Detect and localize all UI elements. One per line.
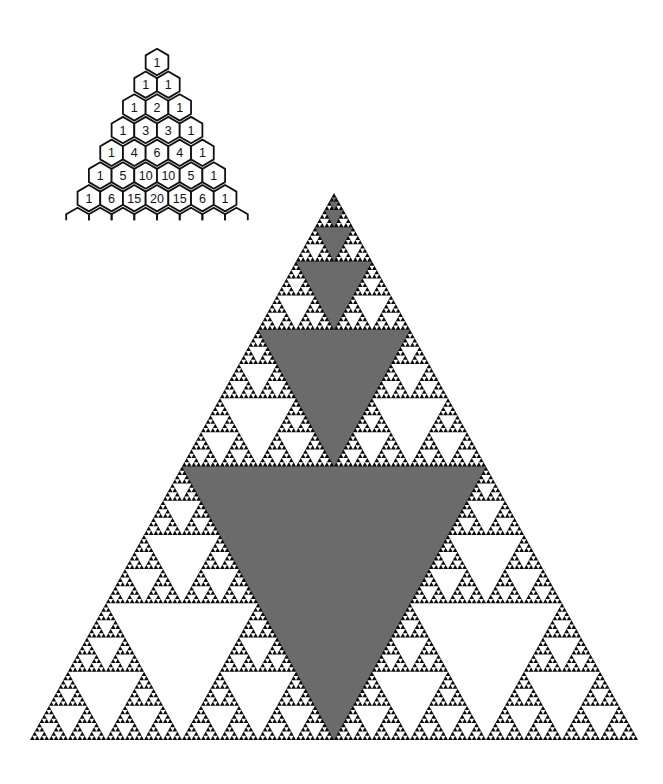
pascal-cell-value: 1 (165, 78, 172, 92)
pascal-cell-value: 1 (199, 146, 206, 160)
pascal-cell-value: 4 (131, 146, 138, 160)
pascal-cell-value: 4 (176, 146, 183, 160)
pascal-cell-value: 5 (188, 169, 195, 183)
pascal-cell-value: 3 (142, 124, 149, 138)
pascal-triangle: 111121133114641151010511615201561 (66, 49, 248, 221)
pascal-cell-value: 20 (150, 192, 164, 206)
pascal-cell-value: 1 (154, 56, 161, 70)
pascal-cell-value: 3 (165, 124, 172, 138)
pascal-cell-value: 1 (119, 124, 126, 138)
pascal-cell-value: 2 (154, 101, 161, 115)
sierpinski-triangle (30, 193, 638, 740)
pascal-cell-value: 1 (188, 124, 195, 138)
pascal-cell-value: 1 (85, 192, 92, 206)
pascal-cell-value: 1 (97, 169, 104, 183)
pascal-cell-value: 1 (142, 78, 149, 92)
pascal-cell-value: 10 (161, 169, 175, 183)
pascal-cell-value: 6 (108, 192, 115, 206)
pascal-cell-value: 1 (108, 146, 115, 160)
pascal-cell-value: 1 (222, 192, 229, 206)
pascal-cell-value: 1 (176, 101, 183, 115)
figure-canvas: 111121133114641151010511615201561 (0, 0, 663, 784)
pascal-cell-value: 6 (199, 192, 206, 206)
pascal-cell-value: 6 (154, 146, 161, 160)
pascal-cell-value: 15 (173, 192, 187, 206)
pascal-cell-value: 1 (210, 169, 217, 183)
pascal-cell-value: 15 (127, 192, 141, 206)
pascal-cell-value: 5 (119, 169, 126, 183)
pascal-cell-value: 1 (131, 101, 138, 115)
pascal-cell-value: 10 (139, 169, 153, 183)
